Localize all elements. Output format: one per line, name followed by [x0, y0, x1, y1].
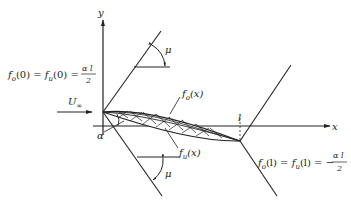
mach-line-upper-trailing: [240, 65, 291, 141]
svg-text:α l: α l: [82, 64, 93, 73]
svg-text:fo(0) = fu(0) =: fo(0) = fu(0) =: [7, 69, 79, 83]
svg-text:2: 2: [336, 164, 342, 173]
leading-edge-equation: fo(0) = fu(0) = α l 2: [7, 64, 96, 85]
svg-text:α l: α l: [333, 151, 344, 160]
lower-surface-label: fu(x): [178, 147, 201, 161]
trailing-edge-equation: fo(l) = fu(l) = − α l 2: [257, 151, 347, 173]
alpha-label: α: [97, 130, 104, 141]
airfoil-mach-diagram: y x μ μ α l U∞ fo(x) fu(x) fo(0) = fu(0)…: [0, 0, 351, 205]
upper-surface-label: fo(x): [181, 88, 203, 102]
y-axis-label: y: [97, 7, 104, 18]
mach-line-upper-leading: [103, 31, 161, 112]
x-axis-label: x: [332, 121, 338, 132]
upper-surface-leader: [170, 97, 180, 114]
mu-label-top: μ: [165, 44, 172, 55]
mu-arc-bottom: [153, 158, 163, 180]
mu-arc-top: [152, 45, 165, 66]
svg-text:fo(l) = fu(l) = −: fo(l) = fu(l) = −: [257, 157, 334, 171]
chord-length-label: l: [238, 112, 241, 123]
mu-label-bottom: μ: [165, 168, 172, 179]
freestream-label: U∞: [68, 96, 82, 110]
svg-text:2: 2: [85, 76, 91, 85]
mach-line-lower-trailing: [240, 141, 277, 196]
